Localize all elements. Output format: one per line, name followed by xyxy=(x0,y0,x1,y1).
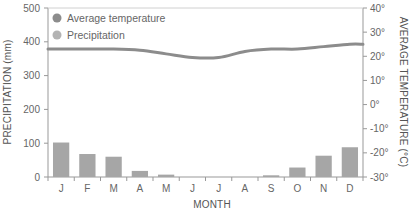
climate-chart: 0100200300400500-30°-20°-10°0°10°20°30°4… xyxy=(0,0,412,214)
precipitation-bar xyxy=(315,156,331,177)
y2-axis-label: AVERAGE TEMPERATURE (°C) xyxy=(398,17,409,167)
x-axis-label: MONTH xyxy=(193,199,231,210)
y-tick-label: 200 xyxy=(23,104,40,115)
x-tick-label: D xyxy=(346,183,353,194)
legend-precip-label: Precipitation xyxy=(67,29,125,41)
precipitation-bar xyxy=(79,154,95,177)
y2-tick-label: 10° xyxy=(370,75,385,86)
legend-precip-marker-icon xyxy=(53,31,62,40)
precipitation-bar xyxy=(342,147,358,177)
x-tick-label: J xyxy=(190,183,195,194)
x-tick-label: F xyxy=(84,183,90,194)
legend-temp-marker-icon xyxy=(53,14,62,23)
y2-tick-label: -30° xyxy=(370,172,388,183)
precipitation-bar xyxy=(53,143,69,177)
precipitation-bar xyxy=(158,175,174,177)
y-tick-label: 400 xyxy=(23,36,40,47)
x-tick-label: A xyxy=(242,183,249,194)
x-tick-label: O xyxy=(293,183,301,194)
x-tick-label: M xyxy=(109,183,117,194)
y2-tick-label: 20° xyxy=(370,51,385,62)
precipitation-bar xyxy=(289,168,305,177)
y-tick-label: 300 xyxy=(23,70,40,81)
legend-temp-label: Average temperature xyxy=(67,12,166,24)
precipitation-bar xyxy=(263,175,279,177)
y2-tick-label: 0° xyxy=(370,99,380,110)
x-tick-label: A xyxy=(137,183,144,194)
x-tick-label: N xyxy=(320,183,327,194)
temperature-line xyxy=(48,44,363,58)
y-tick-label: 100 xyxy=(23,138,40,149)
y2-tick-label: 40° xyxy=(370,3,385,14)
y2-tick-label: -10° xyxy=(370,123,388,134)
x-tick-label: J xyxy=(216,183,221,194)
x-tick-label: M xyxy=(162,183,170,194)
legend: Average temperature Precipitation xyxy=(53,12,166,41)
y2-tick-label: -20° xyxy=(370,147,388,158)
y-tick-label: 500 xyxy=(23,3,40,14)
precipitation-bar xyxy=(132,171,148,177)
x-tick-label: S xyxy=(268,183,275,194)
precipitation-bar xyxy=(105,157,121,177)
y-axis-label: PRECIPITATION (mm) xyxy=(2,40,13,145)
x-tick-label: J xyxy=(59,183,64,194)
y-tick-label: 0 xyxy=(34,172,40,183)
y2-tick-label: 30° xyxy=(370,27,385,38)
